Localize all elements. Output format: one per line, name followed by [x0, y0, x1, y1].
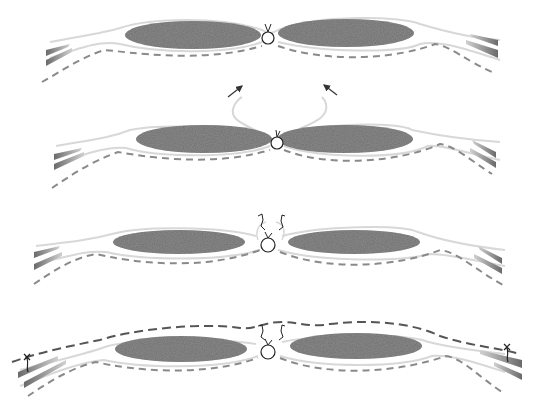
arrow-right-icon: [324, 85, 337, 95]
dashed-layer: [52, 144, 492, 188]
muscle-left: [115, 336, 247, 362]
fascia-outline-top: [50, 18, 500, 42]
dashed-layer: [42, 44, 492, 82]
dashed-layer: [28, 356, 502, 396]
muscle-left: [125, 21, 261, 49]
suture-left-loop: [258, 325, 265, 340]
muscle-right: [288, 230, 420, 254]
suture-knot: [261, 238, 275, 252]
dashed-layer: [34, 250, 505, 286]
fascia-outline-bottom: [20, 356, 505, 386]
suture-right-loop: [279, 325, 285, 340]
stage-2: [52, 85, 500, 188]
diagram-svg: [0, 0, 537, 411]
suture-knot: [271, 137, 283, 149]
suture-right-loop: [279, 215, 285, 230]
surgical-diagram: [0, 0, 537, 411]
suture-knot: [262, 32, 274, 44]
suture-knot: [261, 345, 275, 359]
suture-ends: [265, 339, 272, 345]
suture-ends: [265, 24, 271, 32]
suture-ends: [265, 232, 272, 238]
arrow-left-icon: [228, 86, 242, 97]
stage-1: [42, 18, 500, 82]
stage-3: [34, 214, 505, 286]
muscle-right: [290, 333, 422, 359]
muscle-left: [136, 125, 272, 153]
fascia-flap-right: [276, 222, 284, 240]
muscle-right: [277, 125, 413, 153]
muscle-left: [113, 230, 245, 254]
muscle-right: [278, 19, 414, 47]
stage-4: [12, 322, 522, 396]
